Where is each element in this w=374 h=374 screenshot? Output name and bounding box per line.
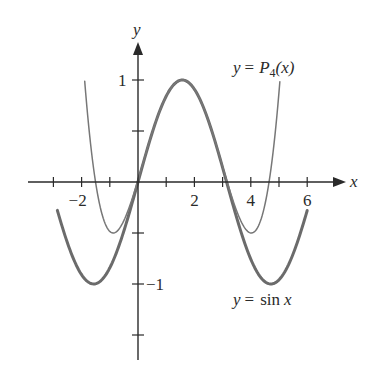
p4-label-func: P bbox=[258, 58, 269, 77]
x-axis-arrow-icon bbox=[333, 177, 346, 187]
x-axis-label: x bbox=[349, 172, 358, 191]
x-tick-label: 4 bbox=[247, 191, 256, 210]
p4-label-arg: (x) bbox=[276, 58, 295, 77]
sin-label-var: x bbox=[283, 290, 292, 309]
p4-label-prefix: y bbox=[231, 58, 241, 77]
x-tick-label: 2 bbox=[190, 191, 199, 210]
p4-curve-label: y=P4(x) bbox=[231, 58, 295, 80]
x-tick-labels: −2246 bbox=[69, 191, 312, 210]
p4-curve bbox=[85, 80, 280, 233]
y-tick-label: 1 bbox=[118, 71, 127, 90]
y-axis-arrow-icon bbox=[133, 42, 143, 55]
x-tick-label: 6 bbox=[303, 191, 312, 210]
sin-curve-label: y=sinx bbox=[231, 290, 292, 309]
plot-area: x y −2246 1−1 y=P4(x) y=sinx bbox=[0, 0, 374, 374]
x-tick-label: −2 bbox=[69, 191, 87, 210]
y-tick-label: −1 bbox=[146, 275, 164, 294]
y-axis-label: y bbox=[131, 20, 141, 39]
sin-label-func: sin bbox=[260, 290, 280, 309]
